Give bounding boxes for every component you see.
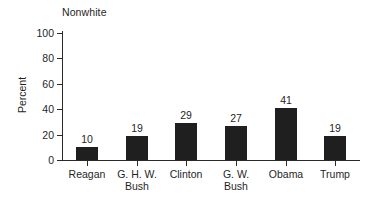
x-axis-tick	[236, 161, 237, 166]
x-axis-tick-label-line: Bush	[204, 180, 268, 192]
y-axis-tick-label: 60	[14, 79, 54, 89]
y-axis-tick	[57, 33, 62, 34]
bar-value-label: 41	[263, 95, 309, 106]
bar-value-label: 19	[312, 123, 358, 134]
x-axis-tick	[186, 161, 187, 166]
bar	[126, 136, 148, 160]
bar	[275, 108, 297, 160]
y-axis-line	[62, 31, 63, 161]
bar	[324, 136, 346, 160]
y-axis-tick	[57, 84, 62, 85]
bar-value-label: 10	[64, 134, 110, 145]
y-axis-tick	[57, 160, 62, 161]
x-axis-tick	[286, 161, 287, 166]
x-axis-tick-label-line: G. H. W.	[117, 168, 157, 180]
y-axis-tick	[57, 109, 62, 110]
bar-chart: Nonwhite Percent 020406080100 ReaganG. H…	[0, 0, 370, 201]
x-axis-tick-label: Trump	[303, 168, 367, 180]
x-axis-tick-label-line: Reagan	[69, 168, 106, 180]
x-axis-tick	[137, 161, 138, 166]
y-axis-tick	[57, 135, 62, 136]
bar-value-label: 27	[213, 113, 259, 124]
y-axis-tick-label: 0	[14, 155, 54, 165]
x-axis-tick	[335, 161, 336, 166]
bar	[175, 123, 197, 160]
x-axis-tick-label-line: Obama	[269, 168, 303, 180]
bar-value-label: 19	[114, 123, 160, 134]
y-axis-tick-label: 20	[14, 130, 54, 140]
x-axis-line	[62, 160, 360, 161]
x-axis-tick-label-line: G. W.	[223, 168, 249, 180]
x-axis-tick-label-line: Trump	[320, 168, 350, 180]
y-axis-tick-label: 100	[14, 28, 54, 38]
bar	[76, 147, 98, 160]
x-axis-tick-label-line: Bush	[105, 180, 169, 192]
x-axis-tick	[87, 161, 88, 166]
y-axis-tick	[57, 58, 62, 59]
bar	[225, 126, 247, 160]
chart-title: Nonwhite	[62, 6, 107, 18]
y-axis-tick-label: 80	[14, 53, 54, 63]
y-axis-tick-label: 40	[14, 104, 54, 114]
y-axis-title: Percent	[16, 30, 30, 160]
x-axis-tick-label-line: Clinton	[170, 168, 203, 180]
bar-value-label: 29	[163, 110, 209, 121]
